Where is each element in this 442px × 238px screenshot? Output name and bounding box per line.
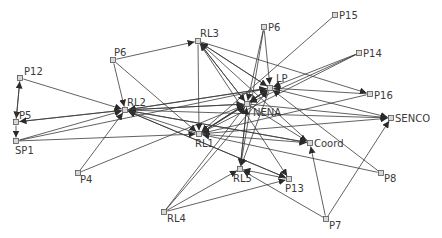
node-rl5[interactable]: RL5 <box>233 167 252 185</box>
node-senco[interactable]: SENCO <box>389 113 431 124</box>
node-label: P16 <box>374 90 393 101</box>
edge-rl3-to-nena <box>200 44 245 101</box>
node-label: P14 <box>363 48 382 59</box>
node-square-icon[interactable] <box>245 102 250 107</box>
node-square-icon[interactable] <box>162 210 167 215</box>
node-label: RL4 <box>167 213 186 224</box>
node-label: P8 <box>384 173 396 184</box>
node-label: RL3 <box>200 28 219 39</box>
node-square-icon[interactable] <box>287 177 292 182</box>
edge-rl3-to-lp <box>201 43 267 86</box>
node-square-icon[interactable] <box>268 86 273 91</box>
edge-p12-to-rl2 <box>23 79 121 109</box>
node-square-icon[interactable] <box>324 217 329 222</box>
node-square-icon[interactable] <box>379 171 384 176</box>
edge-rl4-to-rl5 <box>167 171 237 211</box>
node-square-icon[interactable] <box>238 167 243 172</box>
edge-p8-to-lp <box>273 90 378 171</box>
node-label: RL1 <box>195 138 214 149</box>
edge-p4-to-rl2 <box>80 113 123 170</box>
node-label: RL5 <box>233 173 252 184</box>
edge-rl2-to-p5 <box>20 110 122 121</box>
node-square-icon[interactable] <box>111 58 116 63</box>
edge-p6a-to-rl2 <box>114 63 124 106</box>
node-square-icon[interactable] <box>123 108 128 113</box>
edge-p7-to-coord <box>311 146 326 215</box>
node-square-icon[interactable] <box>14 139 19 144</box>
edge-layer <box>16 17 389 217</box>
edge-rl3-to-p16 <box>201 42 366 93</box>
node-lp[interactable]: LP <box>268 73 288 91</box>
node-square-icon[interactable] <box>14 120 19 125</box>
node-label: P15 <box>339 10 358 21</box>
node-label: P4 <box>80 174 92 185</box>
node-label: RL2 <box>127 97 146 108</box>
node-p13[interactable]: P13 <box>285 177 304 195</box>
node-label: LP <box>276 73 288 84</box>
node-label: P13 <box>285 183 304 194</box>
node-square-icon[interactable] <box>333 13 338 18</box>
node-p6a[interactable]: P6 <box>111 47 127 63</box>
node-label: P12 <box>24 66 43 77</box>
node-square-icon[interactable] <box>368 92 373 97</box>
node-coord[interactable]: Coord <box>308 138 344 149</box>
node-p12[interactable]: P12 <box>18 66 43 81</box>
node-rl4[interactable]: RL4 <box>162 210 186 225</box>
node-square-icon[interactable] <box>262 25 267 30</box>
node-square-icon[interactable] <box>197 132 202 137</box>
node-square-icon[interactable] <box>389 116 394 121</box>
edge-p6a-to-rl3 <box>116 42 194 59</box>
node-p4[interactable]: P4 <box>76 171 93 186</box>
node-layer: P12P5SP1P4P6RL2RL3P6P15P14LPNENARL1Coord… <box>14 10 431 231</box>
node-square-icon[interactable] <box>18 76 23 81</box>
node-label: Coord <box>314 138 344 149</box>
node-label: P5 <box>19 110 31 121</box>
node-square-icon[interactable] <box>196 39 201 44</box>
node-p14[interactable]: P14 <box>357 48 382 59</box>
node-p7[interactable]: P7 <box>324 217 342 232</box>
edge-rl3-to-rl1 <box>198 45 199 131</box>
node-p8[interactable]: P8 <box>379 171 397 185</box>
node-square-icon[interactable] <box>308 141 313 146</box>
node-label: P6 <box>114 47 126 58</box>
node-label: P7 <box>329 220 341 231</box>
node-p15[interactable]: P15 <box>333 10 358 21</box>
node-label: SP1 <box>15 145 34 156</box>
node-label: NENA <box>253 107 281 118</box>
node-square-icon[interactable] <box>357 51 362 56</box>
node-p16[interactable]: P16 <box>368 90 393 101</box>
node-rl3[interactable]: RL3 <box>196 28 219 44</box>
node-label: P6 <box>268 22 280 33</box>
node-label: SENCO <box>395 113 430 124</box>
network-diagram: P12P5SP1P4P6RL2RL3P6P15P14LPNENARL1Coord… <box>0 0 442 238</box>
